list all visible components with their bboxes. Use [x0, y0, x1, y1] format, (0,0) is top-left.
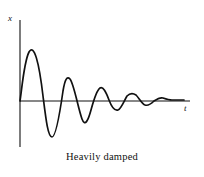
damped-oscillation-figure: x t Heavily damped	[0, 0, 204, 177]
damped-oscillation-curve	[20, 50, 184, 137]
y-axis-label: x	[8, 14, 12, 23]
t-axis-label: t	[184, 104, 187, 113]
figure-caption: Heavily damped	[0, 151, 204, 162]
